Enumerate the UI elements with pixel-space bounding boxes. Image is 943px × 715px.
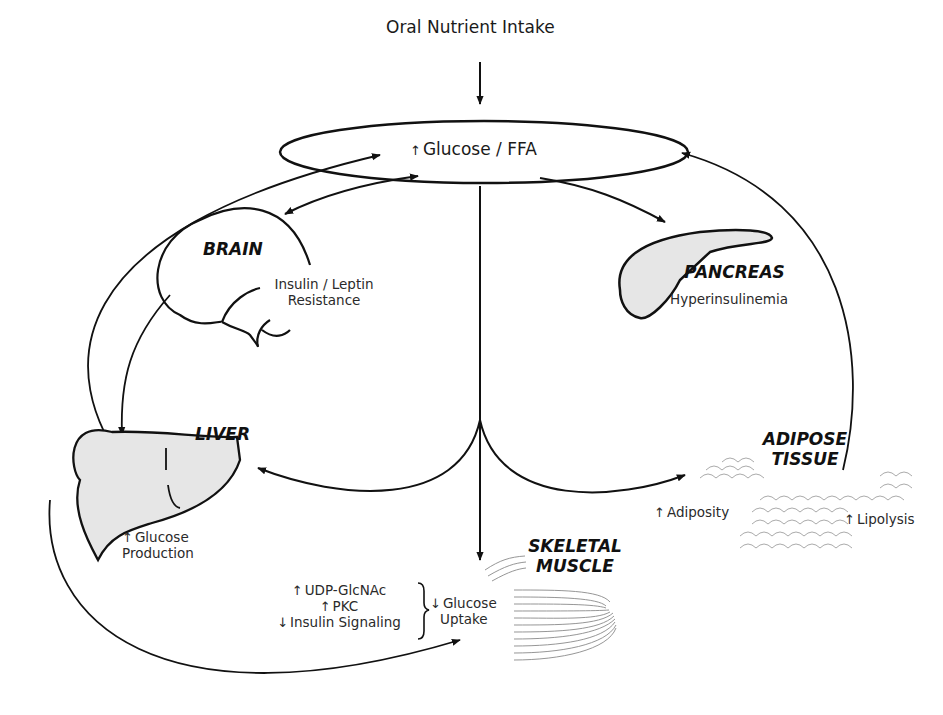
adipose-texture — [700, 458, 912, 548]
increase-arrow-icon: ↑ — [320, 600, 331, 615]
intake-label: Oral Nutrient Intake — [386, 18, 555, 38]
factor-item: ↑UDP-GlcNAc — [255, 583, 423, 599]
hub-label: ↑Glucose / FFA — [410, 140, 537, 160]
trunk-adipose-arrow — [480, 420, 685, 492]
hub-brain-arrow — [285, 176, 418, 214]
diagram-canvas: Oral Nutrient Intake ↑Glucose / FFA BRAI… — [0, 0, 943, 715]
muscle-outcome: ↓Glucose Uptake — [430, 596, 497, 627]
liver-title: LIVER — [195, 425, 250, 445]
brain-liver-arrow — [122, 295, 170, 435]
hub-pancreas-arrow — [540, 178, 665, 222]
muscle-title: SKELETAL MUSCLE — [525, 537, 625, 576]
pancreas-effect: Hyperinsulinemia — [670, 292, 788, 308]
muscle-factors: ↑UDP-GlcNAc ↑PKC ↓Insulin Signaling — [255, 583, 423, 631]
factor-item: ↑PKC — [255, 599, 423, 615]
increase-arrow-icon: ↑ — [292, 584, 303, 599]
increase-arrow-icon: ↑ — [844, 513, 855, 528]
factor-item: ↓Insulin Signaling — [255, 615, 423, 631]
adipose-left-effect: ↑Adiposity — [654, 505, 729, 521]
decrease-arrow-icon: ↓ — [277, 616, 288, 631]
adipose-right-effect: ↑Lipolysis — [844, 512, 915, 528]
decrease-arrow-icon: ↓ — [430, 597, 441, 612]
trunk-liver-arrow — [258, 420, 480, 491]
pancreas-title: PANCREAS — [684, 263, 785, 283]
increase-arrow-icon: ↑ — [410, 144, 421, 159]
adipose-hub-arrow — [682, 153, 853, 470]
adipose-title: ADIPOSE TISSUE — [755, 430, 855, 469]
increase-arrow-icon: ↑ — [654, 506, 665, 521]
brain-title: BRAIN — [203, 240, 263, 260]
liver-effect: ↑Glucose Production — [122, 530, 194, 561]
brain-effect: Insulin / Leptin Resistance — [268, 277, 380, 308]
increase-arrow-icon: ↑ — [122, 531, 133, 546]
